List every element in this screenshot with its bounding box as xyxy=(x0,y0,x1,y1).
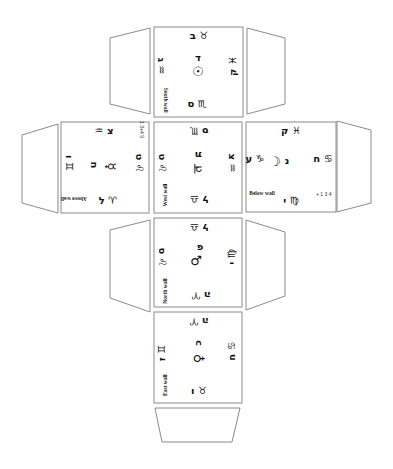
north-wall-label: North wall xyxy=(162,278,168,304)
face-east: ה ♈ ז ♊ כ ♀ ח ♋ East wall ו ♉ xyxy=(154,312,242,402)
east-right-glyph: ח ♋ xyxy=(227,339,237,363)
flap-south-right xyxy=(247,28,285,114)
above-top-glyph: ♒ צ xyxy=(89,126,119,136)
above-small-note: 1 3+4 5 xyxy=(139,121,144,138)
south-left-glyph: ג ♒ xyxy=(156,55,166,77)
below-left-glyph: ע ♑ xyxy=(244,154,266,164)
flap-above-left xyxy=(22,124,58,213)
above-wall-label: Above wall xyxy=(63,196,87,202)
face-west: ס ♏ ט ♌ ת ♃ צ ♒ West wall ל ♎ xyxy=(154,122,242,212)
flap-east-bottom xyxy=(155,408,240,442)
south-bottom-glyph: ס ♏ xyxy=(182,99,212,109)
east-bottom-glyph: ו ♉ xyxy=(184,386,214,396)
below-small-note: + 1 3 4 xyxy=(316,192,331,197)
south-wall-label: South wall xyxy=(163,86,169,114)
south-right-glyph: ק ♓ xyxy=(228,55,238,77)
moon-icon: ☽ xyxy=(268,155,282,168)
above-right-glyph: ט ♌ xyxy=(134,151,144,175)
flap-north-right xyxy=(246,220,285,310)
sun-icon: ☉ xyxy=(188,65,208,78)
jupiter-icon: ♃ xyxy=(188,162,208,175)
above-center-letter: ח xyxy=(89,158,99,172)
mercury-icon: ☿ xyxy=(104,158,117,176)
below-bottom-glyph: י ♍ xyxy=(276,196,306,206)
below-right-glyph: ח ♋ xyxy=(312,154,334,164)
west-center-letter: ת xyxy=(190,150,206,160)
above-left-glyph: ו ♊ xyxy=(64,151,74,175)
venus-icon: ♀ xyxy=(192,349,205,369)
north-center-letter: פ xyxy=(192,242,208,252)
north-right-glyph: י ♍ xyxy=(227,245,237,269)
west-left-glyph: ט ♌ xyxy=(157,151,167,175)
below-center-letter: נ xyxy=(280,156,294,166)
east-wall-label: East wall xyxy=(162,372,168,398)
face-below: ק ♓ ע ♑ נ ☽ ח ♋ Below wall י ♍ + 1 3 4 xyxy=(246,122,334,212)
flap-north-left xyxy=(110,220,150,312)
face-above: ♒ צ 1 3+4 5 ו ♊ ח ☿ ט ♌ Above wall ל ♈ xyxy=(61,122,149,212)
south-top-glyph: ב ♉ xyxy=(184,31,214,41)
face-south: ב ♉ ג ♒ ד ☉ ק ♓ South wall ס ♏ xyxy=(154,27,242,117)
west-wall-label: West wall xyxy=(162,182,168,208)
east-left-glyph: ז ♊ xyxy=(157,341,167,365)
flap-below-right xyxy=(337,121,371,212)
mars-icon: ♂ xyxy=(186,254,206,267)
west-bottom-glyph: ל ♎ xyxy=(184,194,214,204)
above-bottom-glyph: ל ♈ xyxy=(93,196,123,206)
south-center-letter: ד xyxy=(190,53,206,63)
below-wall-label: Below wall xyxy=(248,190,276,196)
north-bottom-glyph: ה ♈ xyxy=(186,290,216,300)
west-top-glyph: ס ♏ xyxy=(184,126,214,136)
east-top-glyph: ה ♈ xyxy=(184,316,214,326)
west-right-glyph: צ ♒ xyxy=(227,151,237,175)
north-left-glyph: ס ♌ xyxy=(157,245,167,269)
flap-south-left xyxy=(110,28,150,114)
north-top-glyph: ל ♎ xyxy=(184,222,214,232)
face-north: ל ♎ ס ♌ פ ♂ י ♍ North wall ה ♈ xyxy=(154,218,242,308)
below-top-glyph: ק ♓ xyxy=(276,126,306,136)
